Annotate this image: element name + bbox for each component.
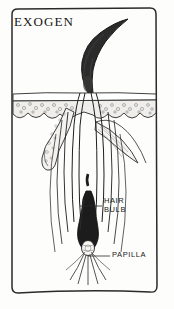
paper-background <box>0 0 174 309</box>
figure-panel: EXOGEN HAIRBULB PAPILLA <box>0 0 174 309</box>
dermal-papilla <box>82 241 95 256</box>
hair-bulb-label: HAIRBULB <box>104 196 126 214</box>
hair-bulb-label-line2: BULB <box>104 205 126 214</box>
figure-title: EXOGEN <box>14 17 74 26</box>
hair-bulb-label-line1: HAIR <box>104 196 124 205</box>
exogen-follicle-illustration <box>0 0 174 309</box>
papilla-label: PAPILLA <box>112 250 146 259</box>
